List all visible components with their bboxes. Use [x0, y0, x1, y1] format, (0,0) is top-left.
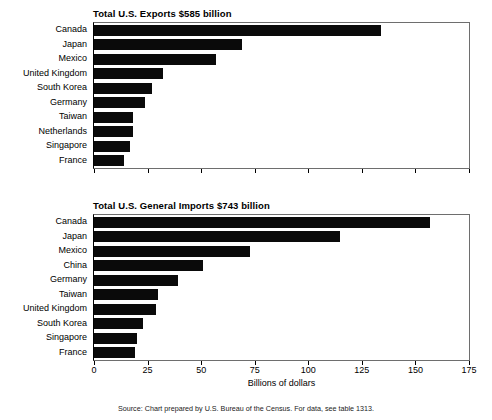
bar — [94, 231, 340, 242]
bar-row — [94, 346, 469, 361]
axis-tick-label: 50 — [196, 365, 206, 375]
axis-tick-label: 75 — [250, 365, 260, 375]
figure-page: Total U.S. Exports $585 billion CanadaJa… — [0, 0, 492, 420]
axis-tick — [415, 169, 416, 173]
category-label: United Kingdom — [0, 301, 90, 316]
bar-row — [94, 154, 469, 169]
category-label: Canada — [0, 214, 90, 229]
bar-row — [94, 288, 469, 303]
chart-imports-category-labels: CanadaJapanMexicoChinaGermanyTaiwanUnite… — [0, 214, 90, 359]
chart-imports-axis: Billions of dollars 0255075100125150175 — [93, 361, 470, 381]
axis-tick — [362, 169, 363, 173]
category-label: France — [0, 153, 90, 168]
bar-row — [94, 230, 469, 245]
bar-row — [94, 38, 469, 53]
source-note: Source: Chart prepared by U.S. Bureau of… — [0, 404, 492, 413]
category-label: Mexico — [0, 243, 90, 258]
chart-imports-plot-area — [93, 214, 470, 361]
axis-tick-label: 100 — [301, 365, 316, 375]
bar-row — [94, 81, 469, 96]
axis-tick — [255, 169, 256, 173]
bar — [94, 246, 250, 257]
bar-row — [94, 125, 469, 140]
axis-tick-label: 25 — [143, 365, 153, 375]
bar — [94, 68, 163, 79]
bar — [94, 112, 133, 123]
bar-row — [94, 215, 469, 230]
category-label: Mexico — [0, 51, 90, 66]
category-label: Germany — [0, 272, 90, 287]
bar-row — [94, 67, 469, 82]
category-label: Canada — [0, 22, 90, 37]
category-label: Netherlands — [0, 124, 90, 139]
axis-tick-label: 0 — [91, 365, 96, 375]
axis-tick — [308, 169, 309, 173]
category-label: France — [0, 345, 90, 360]
bar — [94, 260, 203, 271]
bar — [94, 39, 242, 50]
bar-row — [94, 317, 469, 332]
category-label: Japan — [0, 37, 90, 52]
bar — [94, 217, 430, 228]
bar-row — [94, 52, 469, 67]
bar — [94, 83, 152, 94]
bar — [94, 155, 124, 166]
chart-exports-axis: 0255075100125150175 — [93, 169, 470, 189]
category-label: Singapore — [0, 330, 90, 345]
category-label: Taiwan — [0, 109, 90, 124]
bar-row — [94, 302, 469, 317]
category-label: China — [0, 258, 90, 273]
bar — [94, 304, 156, 315]
chart-exports-plot-area — [93, 22, 470, 169]
bar — [94, 25, 381, 36]
bar-row — [94, 139, 469, 154]
bar-row — [94, 259, 469, 274]
bar-row — [94, 110, 469, 125]
bar — [94, 54, 216, 65]
chart-imports-axis-title: Billions of dollars — [93, 378, 470, 388]
bar — [94, 275, 178, 286]
bar — [94, 141, 130, 152]
category-label: Taiwan — [0, 287, 90, 302]
category-label: Singapore — [0, 138, 90, 153]
bar-row — [94, 96, 469, 111]
chart-imports-title: Total U.S. General Imports $743 billion — [93, 200, 270, 211]
axis-tick-label: 125 — [354, 365, 369, 375]
category-label: Germany — [0, 95, 90, 110]
chart-exports-category-labels: CanadaJapanMexicoUnited KingdomSouth Kor… — [0, 22, 90, 167]
bar — [94, 318, 143, 329]
bar — [94, 347, 135, 358]
bar-row — [94, 23, 469, 38]
bar-row — [94, 273, 469, 288]
bar — [94, 126, 133, 137]
category-label: South Korea — [0, 316, 90, 331]
axis-tick — [201, 169, 202, 173]
axis-tick — [148, 169, 149, 173]
bar — [94, 289, 158, 300]
bar — [94, 333, 137, 344]
category-label: Japan — [0, 229, 90, 244]
axis-tick — [469, 169, 470, 173]
bar-row — [94, 244, 469, 259]
axis-tick-label: 150 — [408, 365, 423, 375]
chart-exports-title: Total U.S. Exports $585 billion — [93, 8, 232, 19]
bar-row — [94, 331, 469, 346]
category-label: United Kingdom — [0, 66, 90, 81]
category-label: South Korea — [0, 80, 90, 95]
bar — [94, 97, 145, 108]
axis-tick — [94, 169, 95, 173]
axis-tick-label: 175 — [461, 365, 476, 375]
